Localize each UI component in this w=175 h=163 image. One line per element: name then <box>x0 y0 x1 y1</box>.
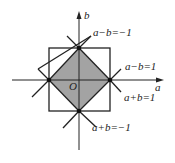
coordinate-diagram: b a O a−b=−1 a−b=1 a+b=1 a+b=−1 <box>0 0 175 163</box>
label-a-minus-b-neg1: a−b=−1 <box>93 26 132 38</box>
label-a-plus-b-neg1: a+b=−1 <box>92 121 131 133</box>
line-right-downright <box>110 80 121 92</box>
y-axis-arrow-icon <box>77 11 82 19</box>
label-a-minus-b-1: a−b=1 <box>125 60 156 72</box>
origin-label: O <box>69 80 77 92</box>
vertex-bottom <box>77 109 82 114</box>
line-top-left-ext <box>36 36 67 67</box>
x-axis-label: a <box>155 81 161 93</box>
vertex-right <box>108 78 113 83</box>
label-a-plus-b-1: a+b=1 <box>124 91 155 103</box>
line-bottom-downleft <box>63 111 79 128</box>
line-top-upleft <box>67 36 79 48</box>
vertex-top <box>77 46 82 51</box>
line-right-upright <box>110 69 121 80</box>
line-left-downleft <box>32 80 49 97</box>
y-axis-label: b <box>84 9 90 21</box>
line-left-upleft <box>38 69 49 80</box>
vertex-left <box>47 78 52 83</box>
